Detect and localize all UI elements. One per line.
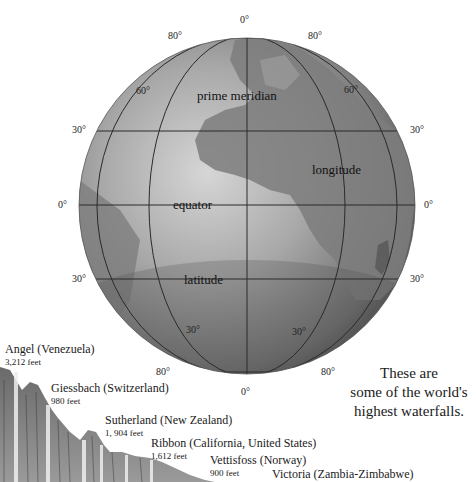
waterfall-name: Ribbon (California, United States) [151,436,316,451]
caption-line-2: some of the world's [342,383,476,402]
waterfall-name: Victoria (Zambia-Zimbabwe) [272,467,414,482]
waterfall-giessbach: Giessbach (Switzerland) 980 feet [51,381,169,406]
waterfall-height: 980 feet [51,396,169,406]
caption: These are some of the world's highest wa… [342,364,476,421]
caption-line-1: These are [342,364,476,383]
waterfall-angel: Angel (Venezuela) 3,212 feet [5,342,95,367]
waterfall-victoria: Victoria (Zambia-Zimbabwe) [272,467,414,482]
waterfall-name: Sutherland (New Zealand) [105,413,232,428]
waterfall-name: Giessbach (Switzerland) [51,381,169,396]
waterfall-name: Vettisfoss (Norway) [210,453,306,468]
waterfall-sutherland: Sutherland (New Zealand) 1, 904 feet [105,413,232,438]
waterfall-height: 3,212 feet [5,357,95,367]
waterfall-name: Angel (Venezuela) [5,342,95,357]
caption-line-3: highest waterfalls. [342,402,476,421]
